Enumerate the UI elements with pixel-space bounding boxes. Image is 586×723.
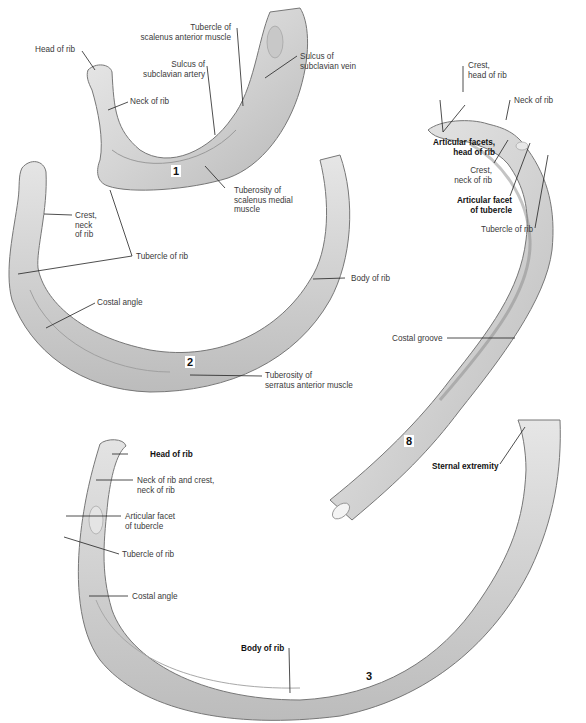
- rib-number-3: 3: [364, 670, 374, 682]
- label-rib1-sulcus-subclavian-vein: Sulcus of subclavian vein: [300, 52, 356, 71]
- label-rib8-crest-neck: Crest, neck of rib: [440, 166, 492, 185]
- rib-number-8: 8: [404, 435, 414, 447]
- label-rib2-body-of-rib: Body of rib: [351, 274, 390, 284]
- label-rib1-head-of-rib: Head of rib: [35, 45, 75, 55]
- label-rib3-sternal-extremity: Sternal extremity: [432, 462, 498, 472]
- label-rib2-tuberosity-serratus-anterior: Tuberosity of serratus anterior muscle: [265, 371, 353, 390]
- label-rib3-neck-and-crest: Neck of rib and crest, neck of rib: [137, 476, 214, 495]
- rib-number-1: 1: [171, 165, 181, 177]
- label-rib3-body-of-rib: Body of rib: [241, 644, 284, 654]
- label-rib8-tubercle-of-rib: Tubercle of rib: [481, 225, 533, 235]
- label-rib2-crest-neck: Crest, neck of rib: [75, 211, 97, 240]
- label-rib8-crest-head: Crest, head of rib: [468, 61, 507, 80]
- label-rib3-tubercle-of-rib: Tubercle of rib: [122, 550, 174, 560]
- label-rib3-articular-facet-tubercle: Articular facet of tubercle: [125, 512, 175, 531]
- label-rib1-sulcus-subclavian-artery: Sulcus of subclavian artery: [136, 60, 205, 79]
- label-rib3-head-of-rib: Head of rib: [150, 450, 193, 460]
- label-rib8-costal-groove: Costal groove: [392, 334, 443, 344]
- label-rib8-neck-of-rib: Neck of rib: [514, 96, 553, 106]
- label-rib8-articular-facet-tubercle: Articular facet of tubercle: [430, 196, 512, 215]
- rib-anatomy-figure: Head of rib Neck of rib Tubercle of scal…: [0, 0, 586, 723]
- label-rib2-costal-angle: Costal angle: [97, 298, 143, 308]
- label-rib1-neck-of-rib: Neck of rib: [130, 97, 169, 107]
- label-rib8-articular-facets-head: Articular facets, head of rib: [400, 138, 495, 157]
- label-rib3-costal-angle: Costal angle: [132, 592, 178, 602]
- rib-number-2: 2: [185, 356, 195, 368]
- rib-illustrations: [0, 0, 586, 723]
- label-rib1-tuberosity-scalenus-medial: Tuberosity of scalenus medial muscle: [234, 186, 293, 215]
- rib-2-illustration: [9, 155, 350, 392]
- label-rib1-tubercle-scalenus-anterior: Tubercle of scalenus anterior muscle: [136, 23, 231, 42]
- label-rib2-tubercle-of-rib: Tubercle of rib: [136, 252, 188, 262]
